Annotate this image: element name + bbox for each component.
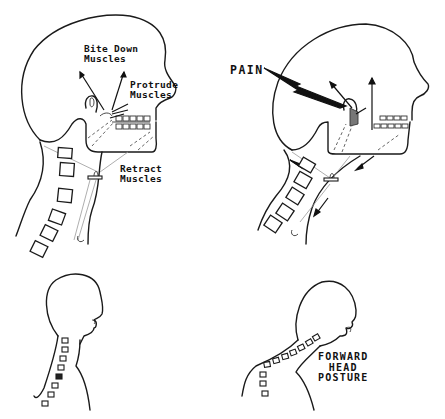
label-bite-down-muscles: Bite Down Muscles bbox=[84, 44, 138, 64]
panel-top-right-head bbox=[258, 24, 429, 244]
label-pain: PAIN bbox=[230, 64, 264, 76]
label-protrude-line2: Muscles bbox=[130, 90, 178, 100]
label-protrude-muscles: Protrude Muscles bbox=[130, 80, 178, 100]
panel-bottom-left-posture bbox=[34, 274, 103, 410]
forward-spine-vertebrae bbox=[260, 334, 320, 396]
label-bite-down-line2: Muscles bbox=[84, 54, 138, 64]
cervical-vertebrae bbox=[30, 148, 74, 258]
label-retract-muscles: Retract Muscles bbox=[120, 164, 162, 184]
upper-teeth bbox=[116, 116, 150, 121]
panel-bottom-right-posture bbox=[242, 281, 356, 410]
anatomy-diagram bbox=[0, 0, 445, 419]
label-fhp-line3: POSTURE bbox=[318, 373, 369, 384]
label-fhp-line1: FORWARD bbox=[318, 352, 369, 363]
lower-teeth bbox=[116, 124, 150, 129]
label-forward-head-posture: FORWARD HEAD POSTURE bbox=[318, 352, 369, 384]
label-retract-line2: Muscles bbox=[120, 174, 162, 184]
